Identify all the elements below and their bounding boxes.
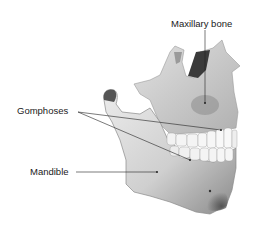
maxillary-bone-label: Maxillary bone xyxy=(171,19,232,29)
gomphoses-label: Gomphoses xyxy=(17,106,68,116)
mandible-label: Mandible xyxy=(30,167,69,177)
